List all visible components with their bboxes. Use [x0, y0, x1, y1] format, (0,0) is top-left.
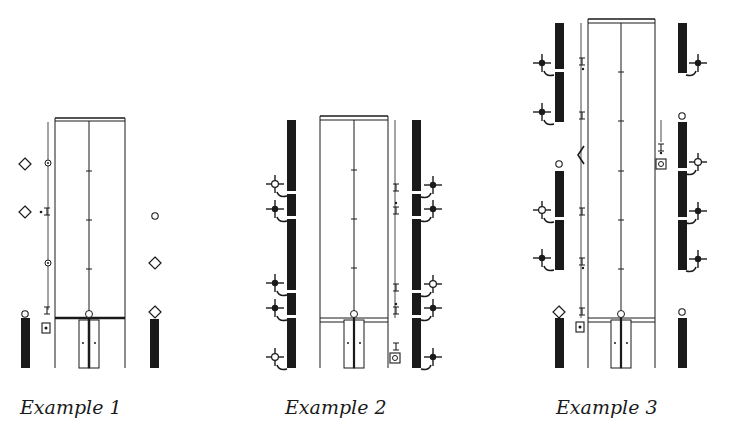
example-3-drawing: [533, 19, 707, 368]
caption-example-1: Example 1: [20, 396, 122, 418]
caption-example-2: Example 2: [285, 396, 387, 418]
caption-example-3: Example 3: [556, 396, 658, 418]
example-1-drawing: [19, 118, 161, 368]
example-2-drawing: [266, 116, 442, 370]
diagram-canvas: [0, 0, 730, 444]
